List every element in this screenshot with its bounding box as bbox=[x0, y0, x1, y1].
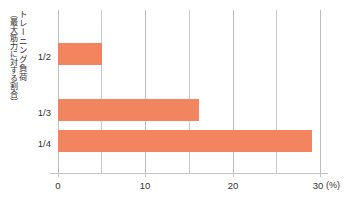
category-label-1: 1/3 bbox=[38, 107, 51, 118]
bar-category-1 bbox=[58, 99, 199, 121]
x-axis-label-0: 0 bbox=[55, 180, 60, 191]
x-axis-label-group: 0 10 20 30 (%) bbox=[0, 180, 351, 194]
bar-chart: トレーニング負荷 （最大筋力に対する割合） 1/2 1/3 1/4 0 10 2… bbox=[0, 0, 351, 204]
gridline-30 bbox=[320, 10, 321, 173]
category-label-2: 1/4 bbox=[38, 138, 51, 149]
x-axis-label-30: 30 bbox=[313, 180, 324, 191]
x-axis-line bbox=[50, 173, 328, 174]
x-tickmark-30 bbox=[320, 173, 321, 177]
x-tickmark-20 bbox=[233, 173, 234, 177]
x-axis-unit-label: (%) bbox=[326, 180, 340, 190]
x-tickmark-0 bbox=[58, 173, 59, 177]
category-label-group: 1/2 1/3 1/4 bbox=[0, 10, 55, 173]
category-label-0: 1/2 bbox=[38, 51, 51, 62]
bar-category-2 bbox=[58, 130, 312, 152]
x-axis-label-10: 10 bbox=[140, 180, 151, 191]
bar-category-0 bbox=[58, 43, 102, 65]
x-axis-label-20: 20 bbox=[228, 180, 239, 191]
x-tickmark-10 bbox=[145, 173, 146, 177]
plot-area bbox=[58, 10, 320, 173]
